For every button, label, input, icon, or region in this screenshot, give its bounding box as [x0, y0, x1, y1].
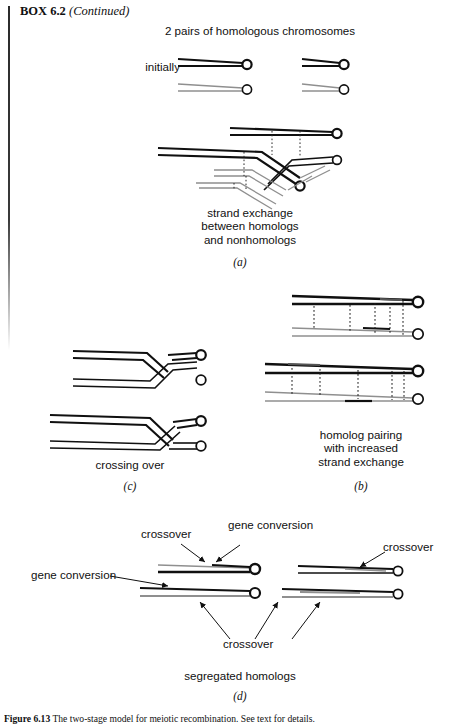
annotation-gene-conversion-top: gene conversion — [228, 518, 313, 531]
leader-crossover-bottom-1 — [200, 602, 230, 639]
panel-d-left-upper — [158, 564, 260, 574]
panel-d-right-upper — [298, 566, 403, 576]
caption-segregated-homologs: segregated homologs — [130, 669, 350, 682]
annotation-crossover-bottom: crossover — [223, 637, 273, 650]
leader-crossover-right — [360, 552, 385, 567]
leader-crossover-left — [181, 544, 205, 562]
panel-d-diagram — [0, 0, 473, 724]
leader-gene-conversion-top — [216, 545, 240, 562]
leader-gene-conversion-left — [110, 576, 168, 586]
figure-caption-text: The two-stage model for meiotic recombin… — [52, 713, 314, 724]
annotation-crossover-right: crossover — [383, 540, 433, 553]
figure-caption: Figure 6.13 The two-stage model for meio… — [4, 713, 470, 724]
figure-page: BOX 6.2 (Continued) 2 pairs of homologou… — [0, 0, 473, 724]
leader-crossover-bottom-3 — [292, 602, 320, 639]
figure-number: Figure 6.13 — [4, 713, 50, 724]
annotation-crossover-left: crossover — [141, 527, 191, 540]
annotation-gene-conversion-left: gene conversion — [31, 568, 116, 581]
panel-d-right-lower — [282, 589, 403, 599]
leader-crossover-bottom-2 — [255, 602, 278, 639]
panel-d-left-lower — [140, 588, 260, 598]
panel-letter-d: (d) — [200, 690, 280, 702]
